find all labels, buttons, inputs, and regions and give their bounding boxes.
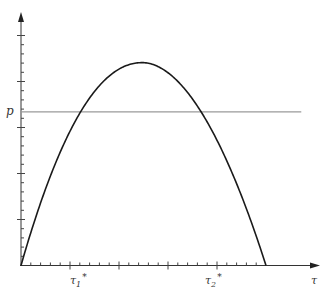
tau1-star-label: τ1* bbox=[70, 272, 87, 289]
y-axis-arrow-icon bbox=[18, 12, 24, 22]
curve-line bbox=[21, 63, 266, 266]
x-axis-label: τ bbox=[311, 274, 318, 287]
chart: p τ1* τ2* τ bbox=[0, 0, 330, 294]
y-axis bbox=[17, 12, 25, 266]
x-axis-arrow-icon bbox=[310, 263, 320, 269]
p-label: p bbox=[6, 104, 14, 118]
x-axis bbox=[20, 262, 320, 270]
tau2-star-label: τ2* bbox=[205, 272, 222, 289]
